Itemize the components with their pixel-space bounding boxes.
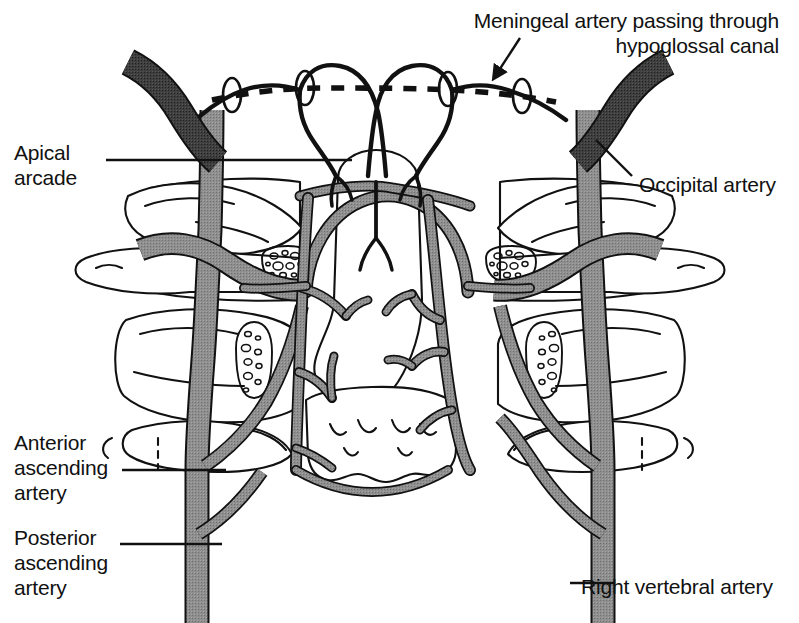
leader-occipital [596, 140, 632, 176]
label-apical-arcade: Apical arcade [14, 140, 77, 190]
anatomy-illustration [0, 0, 799, 623]
label-meningeal-artery: Meningeal artery passing through hypoglo… [474, 8, 779, 58]
lat-conn-right [468, 286, 530, 289]
meningeal-desc-left [300, 90, 336, 176]
label-right-vertebral-artery: Right vertebral artery [581, 574, 773, 599]
lat-conn-left [244, 286, 306, 289]
label-posterior-ascending-artery: Posterior ascending artery [14, 525, 108, 600]
meningeal-desc-right [416, 90, 452, 176]
label-anterior-ascending-artery: Anterior ascending artery [14, 430, 108, 505]
label-occipital-artery: Occipital artery [639, 172, 776, 197]
lp-right-tip [684, 438, 693, 458]
figure-canvas: Meningeal artery passing through hypoglo… [0, 0, 799, 623]
